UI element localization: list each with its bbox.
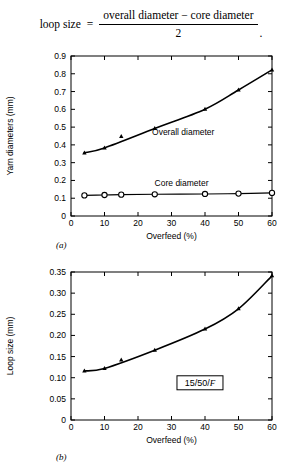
series-curve — [84, 276, 272, 371]
y-tick-label: 0.25 — [49, 309, 66, 319]
data-point-marker — [119, 357, 123, 361]
y-tick-label: 0 — [61, 415, 66, 425]
y-tick-label: 0.2 — [54, 175, 66, 185]
x-tick-label: 30 — [167, 422, 177, 432]
y-tick-label: 0.6 — [54, 104, 66, 114]
y-tick-label: 0.1 — [54, 193, 66, 203]
x-tick-label: 60 — [267, 218, 277, 228]
y-tick-label: 0.30 — [49, 288, 66, 298]
series-label: Overall diameter — [152, 127, 215, 137]
series-curve — [84, 193, 272, 195]
x-axis-title: Overfeed (%) — [146, 435, 197, 445]
x-tick-label: 30 — [167, 218, 177, 228]
data-point-marker — [270, 273, 274, 277]
series-label: Core diameter — [155, 178, 209, 188]
loop-size-formula: loop size = overall diameter − core diam… — [0, 0, 302, 48]
y-axis-title: Yarn diameters (mm) — [5, 96, 15, 175]
y-tick-label: 0.7 — [54, 87, 66, 97]
y-tick-label: 0.35 — [49, 267, 66, 277]
x-tick-label: 20 — [133, 422, 143, 432]
y-tick-label: 0.20 — [49, 330, 66, 340]
y-tick-label: 0.4 — [54, 140, 66, 150]
data-point-marker — [102, 192, 107, 197]
x-axis-title: Overfeed (%) — [146, 231, 197, 241]
plot-frame — [71, 272, 272, 420]
series-curve — [84, 70, 272, 153]
x-tick-label: 50 — [234, 218, 244, 228]
x-tick-label: 60 — [267, 422, 277, 432]
data-point-marker — [269, 190, 274, 195]
x-tick-label: 20 — [133, 218, 143, 228]
panel-label-b: (b) — [56, 452, 67, 462]
y-tick-label: 0.10 — [49, 373, 66, 383]
data-point-marker — [236, 191, 241, 196]
formula-equals-sign: = — [87, 18, 94, 30]
formula-denominator: 2 — [176, 25, 182, 40]
panel-label-a: (a) — [56, 240, 67, 250]
formula-period: . — [260, 27, 263, 40]
chart-loop-size: 010203040506000.050.100.150.200.250.300.… — [0, 262, 302, 471]
data-point-marker — [82, 193, 87, 198]
x-tick-label: 40 — [200, 218, 210, 228]
chart-a-canvas: 010203040506000.10.20.30.40.50.60.70.80.… — [0, 48, 302, 260]
box-annotation-text: 15/50/F — [185, 378, 216, 388]
formula-left-side: loop size — [40, 18, 81, 30]
x-tick-label: 10 — [100, 422, 110, 432]
y-tick-label: 0.8 — [54, 69, 66, 79]
data-point-marker — [202, 191, 207, 196]
y-tick-label: 0.15 — [49, 352, 66, 362]
data-point-marker — [119, 192, 124, 197]
chart-b-canvas: 010203040506000.050.100.150.200.250.300.… — [0, 262, 302, 471]
y-tick-label: 0 — [61, 211, 66, 221]
formula-fraction: overall diameter − core diameter 2 — [99, 8, 257, 40]
y-tick-label: 0.5 — [54, 122, 66, 132]
data-point-marker — [270, 67, 274, 71]
x-tick-label: 50 — [234, 422, 244, 432]
y-tick-label: 0.05 — [49, 394, 66, 404]
data-point-marker — [119, 134, 123, 138]
x-tick-label: 10 — [100, 218, 110, 228]
box-annotation-italic: F — [209, 378, 216, 388]
data-point-marker — [152, 192, 157, 197]
formula-numerator: overall diameter − core diameter — [99, 8, 257, 24]
x-tick-label: 40 — [200, 422, 210, 432]
chart-yarn-diameters: 010203040506000.10.20.30.40.50.60.70.80.… — [0, 48, 302, 260]
y-tick-label: 0.9 — [54, 51, 66, 61]
y-axis-title: Loop size (mm) — [5, 317, 15, 376]
x-tick-label: 0 — [69, 422, 74, 432]
y-tick-label: 0.3 — [54, 158, 66, 168]
x-tick-label: 0 — [69, 218, 74, 228]
